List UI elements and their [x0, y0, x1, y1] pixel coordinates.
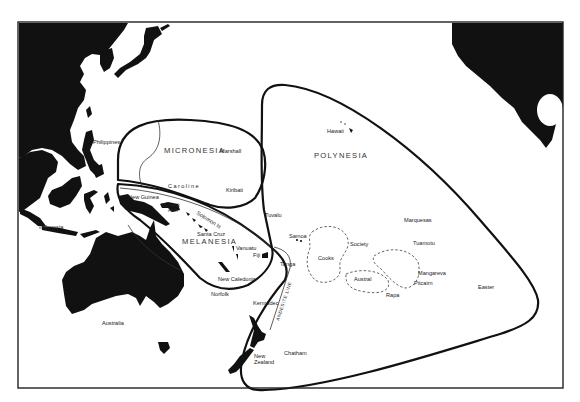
label-hawaii: Hawaii — [327, 128, 344, 134]
kuril-islands — [160, 24, 170, 31]
label-caroline: Caroline — [168, 183, 200, 189]
label-vanuatu: Vanuatu — [236, 245, 256, 251]
tasmania-landmass — [158, 342, 170, 354]
label-mangareva: Mangareva — [418, 270, 447, 276]
label-society: Society — [350, 241, 369, 247]
label-tuamotu: Tuamotu — [413, 240, 435, 246]
label-philippines: Philippines — [93, 139, 120, 145]
korea-landmass — [100, 48, 114, 72]
label-new-caledonia: New Caledonia — [218, 276, 257, 282]
hawaii-islets-2 — [344, 123, 345, 124]
label-kiribati: Kiribati — [226, 187, 243, 193]
label-cooks: Cooks — [318, 255, 334, 261]
label-marquesas: Marquesas — [404, 217, 432, 223]
label-pitcairn: Pitcairn — [414, 280, 433, 286]
region-label-melanesia: MELANESIA — [182, 237, 237, 246]
label-kermadec: Kermadec — [253, 300, 279, 306]
gulf-of-mexico — [537, 94, 563, 126]
borneo-landmass — [48, 176, 82, 208]
hawaii-islets — [340, 121, 341, 122]
fiji-landmass — [262, 252, 268, 258]
asia-landmass — [19, 23, 128, 170]
label-marshall: Marshall — [220, 148, 241, 154]
moluccas — [104, 192, 110, 204]
sulawesi-landmass — [84, 190, 98, 214]
label-norfolk: Norfolk — [211, 291, 229, 297]
tuamotu-group-outline — [373, 250, 419, 288]
taiwan-landmass — [86, 106, 92, 118]
label-chatham: Chatham — [284, 350, 307, 356]
samoa-islands — [296, 239, 298, 241]
japan-landmass — [114, 26, 162, 78]
lesser-sunda-islands — [80, 230, 100, 238]
polynesia-boundary — [241, 85, 538, 390]
label-rapa: Rapa — [386, 292, 400, 298]
oceania-map: ANDESITE LINE MICRONESIA MELANESIA POLYN… — [0, 0, 580, 402]
region-label-micronesia: MICRONESIA — [164, 146, 225, 155]
label-austral: Austral — [354, 276, 371, 282]
label-fiji: Fiji — [253, 252, 260, 258]
label-australia: Australia — [102, 320, 125, 326]
label-easter: Easter — [478, 284, 494, 290]
north-america-landmass — [452, 23, 563, 148]
micronesia-internal-line — [140, 120, 160, 187]
label-samoa: Samoa — [289, 233, 308, 239]
label-santa-cruz: Santa Cruz — [197, 231, 225, 237]
label-new-guinea: New Guinea — [128, 194, 160, 200]
region-label-polynesia: POLYNESIA — [314, 151, 368, 160]
label-tonga: Tonga — [280, 261, 296, 267]
label-indonesia: Indonesia — [39, 224, 64, 230]
label-tuvalu: Tuvalu — [265, 212, 282, 218]
label-new-zealand-2: Zealand — [254, 359, 274, 365]
label-arch: Arch — [168, 208, 178, 213]
samoa-islands-2 — [300, 240, 302, 242]
new-caledonia-landmass — [218, 262, 230, 272]
moluccas-2 — [110, 206, 114, 212]
hawaii-islands — [349, 128, 353, 133]
